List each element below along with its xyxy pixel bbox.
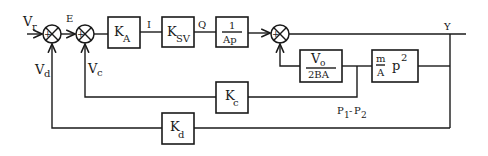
svg-text:SV: SV [176,33,191,44]
kc-feedback-line [85,44,216,97]
svg-text:c: c [233,97,239,108]
svg-text:c: c [97,67,103,78]
summing-junction-2: + − [76,25,94,47]
block-volume: V o 2BA [300,50,342,82]
svg-text:A: A [376,67,385,78]
svg-text:p: p [392,58,400,73]
svg-text:1: 1 [229,20,235,31]
svg-text:P: P [354,105,361,116]
summing-junction-3: + − [271,25,289,47]
svg-text:A: A [122,33,131,44]
block-kd: K d [162,113,194,144]
kd-feedback-line [52,44,162,128]
block-kc: K c [216,82,248,113]
label-vc: V c [87,61,103,78]
svg-text:r: r [32,21,37,32]
label-vr: V r [22,14,37,32]
label-vd: V d [34,62,51,79]
label-q: Q [198,19,206,30]
label-p1-p2: P 1 - P 2 [337,105,367,120]
svg-text:-: - [349,105,352,116]
block-diagram: + − + − + − K A K SV 1 Ap V o 2BA [0,0,488,156]
svg-text:Ap: Ap [222,34,237,45]
svg-text:m: m [376,53,386,64]
svg-text:d: d [44,68,51,79]
summing-junction-1: + − [43,25,61,47]
svg-text:d: d [178,129,185,140]
svg-text:2: 2 [401,52,407,63]
svg-text:2BA: 2BA [308,69,330,80]
label-e: E [66,13,73,24]
minus-sign: − [277,37,285,47]
minus-sign: − [49,37,57,47]
label-y: Y [443,21,451,32]
block-ksv: K SV [162,17,194,47]
svg-text:o: o [320,58,325,68]
minus-sign: − [82,37,90,47]
vol-feedback-line [280,44,300,66]
svg-text:2: 2 [361,110,367,120]
block-ka: K A [108,17,140,48]
block-integrator: 1 Ap [216,17,248,47]
block-mass: m A p 2 [372,50,418,82]
label-i: I [147,19,151,30]
svg-text:P: P [337,105,344,116]
